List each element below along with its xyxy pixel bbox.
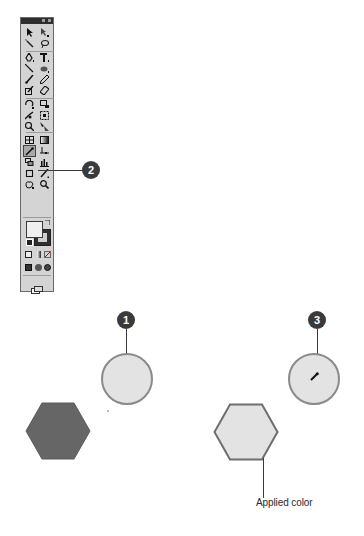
callout-3-badge: 3 xyxy=(308,311,326,329)
hand-icon xyxy=(25,180,34,189)
tools-panel-titlebar[interactable] xyxy=(21,18,53,24)
rotate-tool[interactable] xyxy=(24,99,35,109)
callout-1-leader xyxy=(126,329,127,355)
close-icon[interactable] xyxy=(48,19,51,22)
fill-swatch[interactable] xyxy=(26,221,43,238)
perspective-icon xyxy=(40,122,49,131)
pen-icon xyxy=(25,53,34,62)
type-tool[interactable] xyxy=(39,52,50,62)
eyedropper-tool[interactable] xyxy=(24,146,35,156)
blob-brush-icon xyxy=(25,86,34,95)
tool-row xyxy=(24,157,50,167)
live-paint-bucket-tool[interactable] xyxy=(39,146,50,156)
none-mode-button[interactable] xyxy=(44,251,51,258)
free-transform-tool[interactable] xyxy=(39,110,50,120)
zoom-tool[interactable] xyxy=(39,179,50,189)
eyedropper-icon xyxy=(25,147,34,156)
gradient-mode-button[interactable] xyxy=(37,251,41,258)
symbol-sprayer-icon xyxy=(25,122,34,131)
change-screen-mode-button[interactable] xyxy=(31,280,43,287)
tool-row xyxy=(24,85,50,95)
tool-grid xyxy=(24,27,50,190)
direct-selection-tool[interactable] xyxy=(39,27,50,37)
free-transform-icon xyxy=(40,111,49,120)
default-fill-stroke-icon[interactable] xyxy=(26,239,33,246)
artboard-tool[interactable] xyxy=(24,168,35,178)
artboard-icon xyxy=(25,169,34,178)
tool-divider xyxy=(23,275,51,276)
fill-stroke-swatches xyxy=(26,221,50,245)
blend-icon xyxy=(25,158,34,167)
lasso-tool[interactable] xyxy=(39,38,50,48)
measure-icon xyxy=(40,147,49,156)
pen-tool[interactable] xyxy=(24,52,35,62)
callout-2-badge: 2 xyxy=(82,161,100,179)
tool-row xyxy=(24,99,50,109)
tool-row xyxy=(24,179,50,189)
screen-mode-icon xyxy=(31,286,43,294)
callout-1-badge: 1 xyxy=(117,311,135,329)
paintbrush-tool[interactable] xyxy=(24,74,35,84)
collapse-icon[interactable] xyxy=(42,19,45,22)
rotate-icon xyxy=(25,100,34,109)
tool-row xyxy=(24,110,50,120)
tool-row xyxy=(24,38,50,48)
tool-row xyxy=(24,52,50,62)
blob-brush-tool[interactable] xyxy=(24,85,35,95)
tool-row xyxy=(24,27,50,37)
draw-behind-button[interactable] xyxy=(35,264,42,271)
color-mode-button[interactable] xyxy=(25,251,32,258)
lasso-icon xyxy=(40,39,49,48)
eraser-tool[interactable] xyxy=(39,85,50,95)
paintbrush-icon xyxy=(25,75,34,84)
ellipse-icon xyxy=(40,64,49,73)
scale-icon xyxy=(40,100,49,109)
stray-dot xyxy=(107,410,109,412)
ellipse-tool[interactable] xyxy=(39,63,50,73)
slice-tool[interactable] xyxy=(24,157,35,167)
swap-fill-stroke-icon[interactable] xyxy=(45,220,50,225)
source-circle[interactable] xyxy=(101,353,153,405)
tools-panel[interactable] xyxy=(20,17,54,292)
warp-icon xyxy=(25,111,34,120)
warp-tool[interactable] xyxy=(24,110,35,120)
graph-tool[interactable] xyxy=(39,157,50,167)
gradient-tool[interactable] xyxy=(39,135,50,145)
symbol-sprayer-tool[interactable] xyxy=(24,121,35,131)
mesh-icon xyxy=(25,136,34,144)
tool-divider xyxy=(23,217,51,218)
column-graph-icon xyxy=(40,158,49,167)
magic-wand-icon xyxy=(25,39,34,48)
line-segment-tool[interactable] xyxy=(24,63,35,73)
scale-tool[interactable] xyxy=(39,99,50,109)
type-icon xyxy=(40,53,49,62)
tool-divider xyxy=(26,132,54,133)
tool-row xyxy=(24,63,50,73)
applied-color-caption: Applied color xyxy=(256,497,313,508)
eraser-icon xyxy=(40,86,49,95)
draw-normal-button[interactable] xyxy=(25,264,32,271)
magnifier-icon xyxy=(40,180,49,189)
pencil-icon xyxy=(40,75,49,84)
draw-inside-button[interactable] xyxy=(44,264,51,271)
tool-row xyxy=(24,135,50,145)
hand-tool[interactable] xyxy=(24,179,35,189)
tool-row xyxy=(24,146,50,156)
callout-2-leader xyxy=(38,170,84,171)
mesh-tool[interactable] xyxy=(24,135,35,145)
tool-row xyxy=(24,121,50,131)
eyedropper-cursor-icon xyxy=(309,372,319,382)
tool-row xyxy=(24,74,50,84)
draw-mode-row xyxy=(25,264,51,271)
pencil-tool[interactable] xyxy=(39,74,50,84)
color-mode-row xyxy=(25,251,51,258)
illustration-canvas: 2 1 3 Applied color xyxy=(0,0,364,536)
magic-wand-tool[interactable] xyxy=(24,38,35,48)
original-hexagon[interactable] xyxy=(25,402,91,460)
line-icon xyxy=(25,64,34,73)
gradient-icon xyxy=(40,136,49,144)
selection-tool[interactable] xyxy=(24,27,35,37)
column-graph-tool[interactable] xyxy=(39,121,50,131)
hollow-arrow-icon xyxy=(40,28,49,37)
applied-hexagon[interactable] xyxy=(213,403,279,461)
